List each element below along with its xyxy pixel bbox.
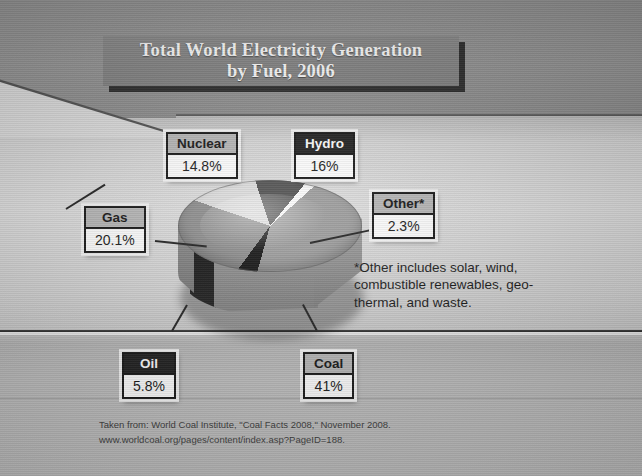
page-title: Total World Electricity Generation by Fu… bbox=[140, 40, 423, 81]
callout-oil-value: 5.8% bbox=[124, 375, 174, 397]
background-divider-upper-highlight bbox=[176, 116, 642, 118]
callout-coal-name: Coal bbox=[305, 354, 352, 375]
callout-oil[interactable]: Oil 5.8% bbox=[122, 352, 176, 399]
callout-nuclear-name: Nuclear bbox=[168, 134, 236, 155]
pie-top-face bbox=[178, 180, 362, 272]
callout-hydro-value: 16% bbox=[296, 155, 353, 177]
callout-gas[interactable]: Gas 20.1% bbox=[84, 206, 146, 253]
other-footnote: *Other includes solar, wind, combustible… bbox=[354, 259, 564, 311]
callout-nuclear-value: 14.8% bbox=[168, 155, 236, 177]
callout-other[interactable]: Other* 2.3% bbox=[372, 192, 435, 239]
title-line-1: Total World Electricity Generation bbox=[140, 40, 423, 60]
callout-coal-value: 41% bbox=[305, 375, 352, 397]
pie-chart bbox=[176, 178, 368, 350]
callout-coal[interactable]: Coal 41% bbox=[303, 352, 354, 399]
source-citation: Taken from: World Coal Institute, "Coal … bbox=[99, 418, 559, 447]
slide-title-plaque: Total World Electricity Generation by Fu… bbox=[103, 36, 459, 86]
source-line-2: www.worldcoal.org/pages/content/index.as… bbox=[99, 433, 559, 448]
callout-nuclear[interactable]: Nuclear 14.8% bbox=[166, 132, 238, 179]
slide-photo: Total World Electricity Generation by Fu… bbox=[0, 0, 642, 476]
callout-gas-name: Gas bbox=[86, 208, 144, 229]
callout-other-value: 2.3% bbox=[374, 215, 433, 237]
callout-other-name: Other* bbox=[374, 194, 433, 215]
callout-hydro-name: Hydro bbox=[296, 134, 353, 155]
source-line-1: Taken from: World Coal Institute, "Coal … bbox=[99, 418, 559, 433]
callout-oil-name: Oil bbox=[124, 354, 174, 375]
title-line-2: by Fuel, 2006 bbox=[227, 61, 335, 81]
callout-gas-value: 20.1% bbox=[86, 229, 144, 251]
callout-hydro[interactable]: Hydro 16% bbox=[294, 132, 355, 179]
